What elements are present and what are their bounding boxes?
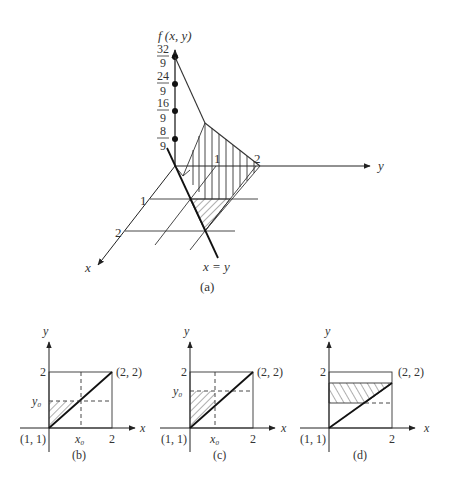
svg-text:(2, 2): (2, 2) [398, 365, 424, 379]
x-axis [98, 166, 175, 265]
svg-text:(d): (d) [353, 448, 367, 462]
svg-text:(b): (b) [72, 448, 86, 462]
svg-text:32: 32 [157, 42, 169, 56]
svg-text:x: x [139, 421, 146, 435]
x-tick-1: 1 [140, 193, 147, 208]
svg-text:9: 9 [160, 111, 166, 125]
svg-text:2: 2 [109, 432, 115, 446]
svg-text:16: 16 [157, 96, 169, 110]
x-axis-label: x [84, 260, 91, 275]
svg-text:(2, 2): (2, 2) [116, 365, 142, 379]
svg-text:x: x [280, 421, 287, 435]
svg-text:2: 2 [181, 365, 187, 379]
svg-text:x₀: x₀ [74, 432, 85, 446]
svg-text:x₀: x₀ [209, 432, 220, 446]
z-axis-label: f (x, y) [158, 28, 192, 43]
base-grid [125, 166, 258, 250]
svg-text:9: 9 [160, 56, 166, 70]
y-axis-label: y [376, 158, 384, 173]
figure-d: x y 2 (2, 2) (1, 1) 2 (d) [300, 324, 430, 462]
x-tick-2: 2 [115, 225, 122, 240]
svg-text:9: 9 [160, 139, 166, 153]
svg-text:24: 24 [157, 69, 169, 83]
svg-text:(2, 2): (2, 2) [257, 365, 283, 379]
x-equals-y-label: x = y [202, 259, 230, 274]
svg-text:2: 2 [40, 365, 46, 379]
y-tick-1: 1 [214, 151, 221, 166]
svg-text:2: 2 [389, 432, 395, 446]
svg-text:y₀: y₀ [172, 384, 183, 398]
svg-text:y: y [324, 324, 331, 338]
figure-a-3d-plot: f (x, y) 32 9 24 9 16 9 8 9 y [84, 28, 384, 294]
base-region-hatched [190, 199, 230, 231]
figure-a-caption: (a) [200, 279, 214, 294]
svg-text:8: 8 [160, 124, 166, 138]
svg-text:(1, 1): (1, 1) [300, 432, 326, 446]
svg-text:2: 2 [320, 365, 326, 379]
svg-text:2: 2 [250, 432, 256, 446]
svg-text:x: x [423, 421, 430, 435]
svg-text:y₀: y₀ [31, 394, 42, 408]
svg-text:(1, 1): (1, 1) [161, 432, 187, 446]
svg-text:y: y [183, 324, 190, 338]
svg-text:(1, 1): (1, 1) [20, 432, 46, 446]
svg-text:(c): (c) [213, 448, 226, 462]
figure-b: x y 2 y₀ (2, 2) (1, 1) x₀ 2 (b) [20, 324, 146, 462]
svg-text:y: y [42, 324, 49, 338]
figure-c: x y 2 y₀ (2, 2) (1, 1) x₀ 2 (c) [160, 324, 287, 462]
